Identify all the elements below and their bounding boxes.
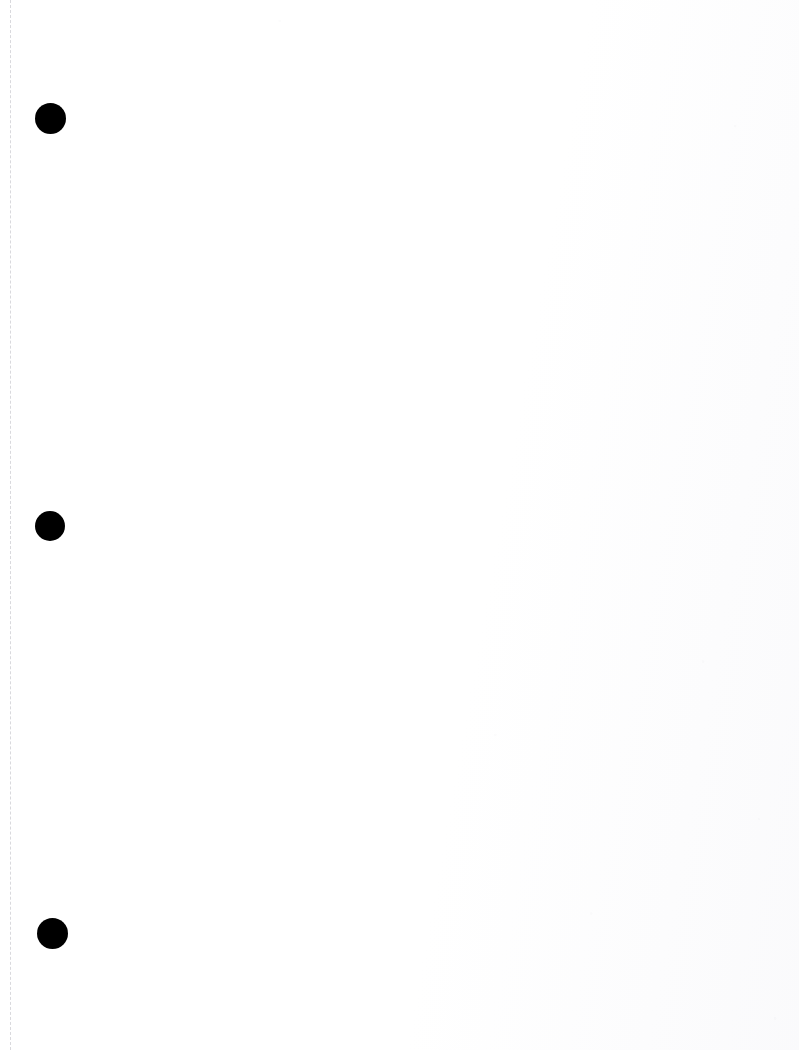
- margin-dot-2: [35, 511, 65, 541]
- dashed-left-margin-line: [10, 0, 11, 1050]
- scanned-page: [0, 0, 799, 1050]
- margin-dot-1: [35, 103, 66, 134]
- paper-scan-texture: [0, 0, 799, 1050]
- margin-dot-3: [37, 918, 68, 949]
